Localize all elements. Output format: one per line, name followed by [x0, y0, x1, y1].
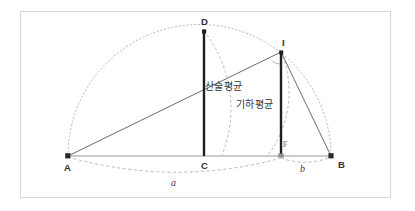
segment-IB	[281, 52, 331, 156]
annotation-geometric-mean: 기하평균	[236, 100, 273, 110]
vertex-marker-A	[65, 153, 70, 158]
vertex-marker-F	[278, 153, 284, 157]
point-label-D: D	[201, 17, 208, 27]
vertex-marker-B	[328, 153, 333, 158]
arc-from-D	[204, 31, 231, 155]
segment-label-b: b	[300, 164, 305, 174]
geometry-figure	[0, 0, 415, 211]
annotation-arithmetic-mean: 산술평균	[205, 82, 242, 92]
arc-below-a	[68, 157, 281, 172]
point-label-B: B	[338, 160, 345, 170]
point-label-A: A	[64, 163, 71, 173]
diagram-canvas: A B C D I F a b 산술평균 기하평균	[0, 0, 415, 211]
arc-below-b	[281, 157, 331, 162]
vertex-marker-I	[279, 50, 283, 54]
point-label-F: F	[283, 141, 288, 149]
vertex-marker-D	[202, 29, 206, 33]
point-label-I: I	[282, 38, 285, 48]
segment-label-a: a	[171, 178, 176, 188]
angle-mark-at-I	[272, 61, 281, 64]
point-label-C: C	[201, 161, 208, 171]
